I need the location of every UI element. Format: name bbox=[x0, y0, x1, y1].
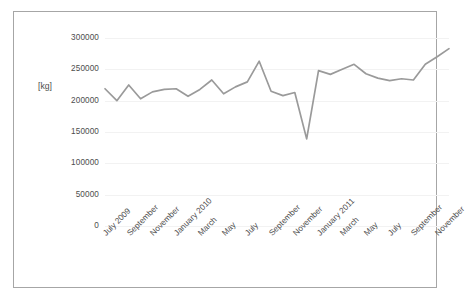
y-tick-label: 0 bbox=[41, 222, 99, 230]
y-tick-label: 50000 bbox=[41, 191, 99, 199]
y-tick-label: 150000 bbox=[41, 128, 99, 136]
gridline bbox=[105, 226, 449, 227]
y-tick-label: 200000 bbox=[41, 97, 99, 105]
y-tick-label: 250000 bbox=[41, 65, 99, 73]
plot-area bbox=[105, 38, 449, 226]
y-axis-title: [kg] bbox=[38, 81, 52, 91]
y-tick-label: 100000 bbox=[41, 159, 99, 167]
chart-frame: 050000100000150000200000250000300000 [kg… bbox=[13, 11, 437, 288]
y-tick-label: 300000 bbox=[41, 34, 99, 42]
series-line-chart bbox=[105, 38, 449, 226]
series-polyline bbox=[105, 49, 449, 139]
